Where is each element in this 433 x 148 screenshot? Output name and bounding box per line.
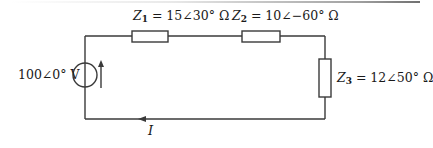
- impedance-z2-resistor: [242, 31, 280, 42]
- source-label: 100∠0° V: [18, 69, 80, 82]
- source-arrow-up-icon: [98, 60, 104, 67]
- z2-label: Z2 = 10∠−60° Ω: [232, 10, 339, 24]
- z3-label: Z3 = 12∠50° Ω: [337, 72, 433, 86]
- current-arrow-left-icon: [138, 116, 146, 122]
- z1-label: Z1 = 15∠30° Ω: [133, 10, 229, 24]
- current-label: I: [148, 124, 153, 137]
- impedance-z1-resistor: [132, 31, 168, 42]
- impedance-z3-resistor: [319, 59, 331, 97]
